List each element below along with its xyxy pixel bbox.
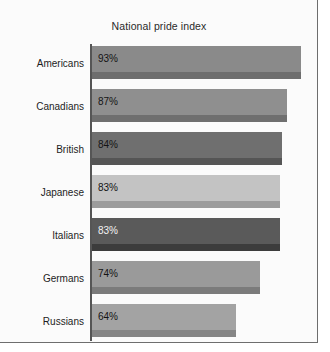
bar-shadow [92,158,282,165]
category-label-italians: Italians [4,229,84,242]
bar-body [92,89,287,115]
bar-value-label: 84% [98,138,118,151]
bar-value-label: 74% [98,267,118,280]
figure-frame: National pride index Americans 93% Canad… [0,0,318,343]
bar-value-label: 83% [98,181,118,194]
bar-british: 84% [92,132,282,165]
bar-italians: 83% [92,218,280,251]
bar-body [92,132,282,158]
bar-russians: 64% [92,304,236,337]
bar-body [92,175,280,201]
bar-shadow [92,244,280,251]
bar-shadow [92,287,260,294]
bar-value-label: 83% [98,224,118,237]
category-label-japanese: Japanese [4,186,84,199]
bar-shadow [92,115,287,122]
category-label-british: British [4,143,84,156]
category-label-russians: Russians [4,315,84,328]
bar-canadians: 87% [92,89,287,122]
bar-body [92,46,301,72]
bar-shadow [92,330,236,337]
bar-value-label: 93% [98,52,118,65]
category-label-americans: Americans [4,57,84,70]
category-label-canadians: Canadians [4,100,84,113]
bar-shadow [92,201,280,208]
chart-figure: National pride index Americans 93% Canad… [0,0,330,352]
chart-title: National pride index [0,20,318,32]
bar-japanese: 83% [92,175,280,208]
bar-americans: 93% [92,46,301,79]
bar-germans: 74% [92,261,260,294]
bar-value-label: 64% [98,310,118,323]
bar-shadow [92,72,301,79]
bar-body [92,218,280,244]
bar-value-label: 87% [98,95,118,108]
category-label-germans: Germans [4,272,84,285]
